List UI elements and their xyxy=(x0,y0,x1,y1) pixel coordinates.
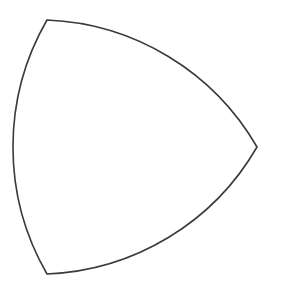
figure-canvas xyxy=(0,0,281,306)
reuleaux-triangle-svg xyxy=(0,0,281,306)
